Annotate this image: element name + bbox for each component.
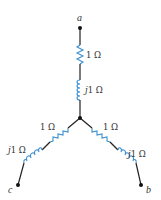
resistor-a-icon [77,45,83,64]
node-c-label: c [8,184,13,195]
inductor-a-icon [77,80,80,100]
node-b-label: b [146,184,151,195]
inductor-b-label: j1 Ω [126,149,146,159]
wire-c-bottom [18,163,24,185]
node-neutral-dot [78,116,82,120]
wye-circuit-diagram: a c b 1 Ω j1 Ω 1 Ω j1 Ω 1 Ω j1 Ω [0,0,161,200]
resistor-a-label: 1 Ω [86,50,101,60]
wire-b-mid [110,142,118,150]
wire-b-bottom [136,163,141,185]
inductor-c-value: 1 Ω [11,145,26,155]
inductor-b-value: 1 Ω [131,149,146,159]
wire-b-top [80,118,92,128]
branch-a [77,28,83,118]
inductor-a-value: 1 Ω [88,85,103,95]
inductor-c-icon [24,148,42,163]
node-a-label: a [77,12,82,23]
inductor-a-label: j1 Ω [83,85,103,95]
wire-c-mid [42,142,50,150]
resistor-c-label: 1 Ω [40,122,55,132]
node-b-dot [139,183,143,187]
wire-c-top [68,118,80,128]
resistor-b-label: 1 Ω [103,122,118,132]
node-c-dot [16,183,20,187]
node-a-dot [78,26,82,30]
inductor-c-label: j1 Ω [6,145,26,155]
